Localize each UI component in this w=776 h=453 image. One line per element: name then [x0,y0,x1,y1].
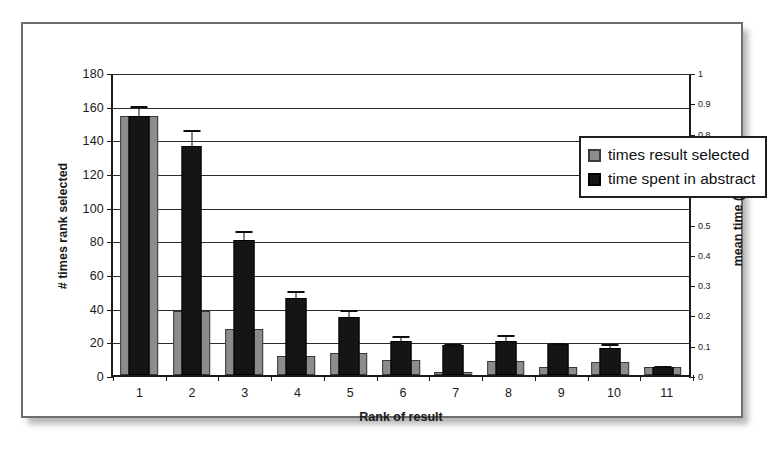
x-tick-label: 6 [400,386,407,400]
y-tick-label-left: 100 [83,202,104,216]
y-tick-label-right: 0.4 [698,251,711,261]
y-axis-title-left: # times rank selected [54,74,72,377]
x-tick-label: 10 [607,386,621,400]
error-bar-cap [288,291,305,293]
y-tick-label-left: 40 [90,303,104,317]
error-bar-cap [602,344,619,346]
screenshot-canvas: # times rank selected mean time (s) 0204… [0,0,776,453]
error-bar-cap [235,231,252,233]
bar-group [322,74,374,375]
error-bar-cap [654,366,671,368]
bar-group [637,74,689,375]
bar-time-spent-in-abstract [548,344,569,375]
y-axis-title-right: mean time (s) [729,74,747,377]
legend-item: time spent in abstract [588,167,755,191]
bar-group [375,74,427,375]
y-tick-label-right: 0.1 [698,342,711,352]
legend-item: times result selected [588,143,755,167]
x-tick [588,375,589,381]
x-tick-label: 11 [660,386,673,400]
bar-group [480,74,532,375]
x-tick [429,375,430,381]
x-tick [482,375,483,381]
bar-time-spent-in-abstract [600,348,621,375]
y-tick-label-left: 60 [90,269,104,283]
y-tick-label-left: 20 [90,336,104,350]
y-tick-right [689,104,695,105]
legend-swatch-icon [588,149,601,162]
bar-group [532,74,584,375]
x-tick-label: 2 [189,386,196,400]
x-tick [640,375,641,381]
x-tick-label: 8 [505,386,512,400]
error-bar-cap [445,344,462,346]
plot-area: 020406080100120140160180 00.10.20.30.40.… [111,74,691,377]
error-bar-cap [183,130,200,132]
error-bar-cap [550,343,567,345]
error-bar-cap [497,335,514,337]
legend: times result selectedtime spent in abstr… [579,136,767,198]
x-tick [166,375,167,381]
error-bar-cap [392,336,409,338]
bar-group [270,74,322,375]
y-tick-right [689,256,695,257]
x-tick [271,375,272,381]
bar-time-spent-in-abstract [495,341,516,376]
y-tick-label-left: 80 [90,235,104,249]
x-tick [535,375,536,381]
bar-time-spent-in-abstract [391,341,412,376]
y-tick-label-right: 1 [698,69,703,79]
x-tick [324,375,325,381]
legend-label: time spent in abstract [608,170,755,188]
bar-groups [113,74,689,375]
error-bar-cap [131,106,148,108]
y-tick-label-left: 0 [97,370,104,384]
x-axis-title: Rank of result [111,410,691,424]
legend-label: times result selected [608,146,749,164]
bar-time-spent-in-abstract [443,345,464,375]
y-tick-label-right: 0 [698,372,703,382]
y-axis-title-left-text: # times rank selected [56,162,70,288]
y-tick-label-right: 0.5 [698,221,711,231]
figure-frame: # times rank selected mean time (s) 0204… [21,22,743,418]
y-tick-label-left: 120 [83,168,104,182]
y-tick-label-right: 0.9 [698,99,711,109]
y-tick-right [689,286,695,287]
y-tick-right [689,347,695,348]
x-tick-label: 5 [347,386,354,400]
x-tick-label: 4 [294,386,301,400]
y-tick-right [689,377,695,378]
x-tick-label: 9 [558,386,565,400]
bar-time-spent-in-abstract [338,317,359,375]
bar-group [113,74,165,375]
bar-group [218,74,270,375]
bar-time-spent-in-abstract [181,146,202,375]
y-tick-label-left: 180 [83,67,104,81]
bar-group [427,74,479,375]
y-tick-right [689,74,695,75]
x-tick [377,375,378,381]
error-bar [191,130,192,148]
x-tick-label: 7 [452,386,459,400]
x-tick [693,375,694,381]
x-tick-label: 1 [136,386,143,400]
bar-group [584,74,636,375]
x-tick [113,375,114,381]
x-tick [218,375,219,381]
y-tick-label-right: 0.2 [698,311,711,321]
x-tick-label: 3 [241,386,248,400]
y-tick-right [689,226,695,227]
bar-time-spent-in-abstract [129,116,150,375]
legend-swatch-icon [588,173,601,186]
bar-time-spent-in-abstract [286,298,307,375]
y-tick-label-right: 0.3 [698,281,711,291]
y-tick-right [689,316,695,317]
y-tick-label-left: 160 [83,101,104,115]
y-tick-label-left: 140 [83,134,104,148]
bar-time-spent-in-abstract [233,240,254,375]
error-bar-cap [340,310,357,312]
bar-group [165,74,217,375]
